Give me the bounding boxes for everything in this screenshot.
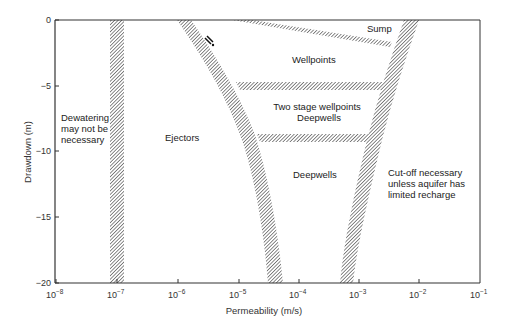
svg-text:10−4: 10−4 [289,288,307,300]
y-tick-labels: 0 −5 −10 −15 −20 [36,15,51,288]
band-wellpoint-limit [236,82,388,90]
dewatering-method-chart: 10−8 10−7 10−6 10−5 10−4 10−3 10−2 10−1 … [0,0,508,322]
svg-text:10−2: 10−2 [409,288,427,300]
label-sump: Sump [367,23,392,34]
y-axis-title: Drawdown (m) [22,121,33,183]
svg-text:limited recharge: limited recharge [388,189,456,200]
svg-text:10−5: 10−5 [229,288,247,300]
label-dewatering: Dewatering [61,112,109,123]
boundary-bands [110,20,419,283]
svg-text:−20: −20 [36,278,51,288]
label-ejectors: Ejectors [165,132,200,143]
svg-text:Deepwells: Deepwells [297,112,341,123]
band-dewatering-limit [110,20,124,283]
svg-text:may not be: may not be [61,123,108,134]
x-tick-labels: 10−8 10−7 10−6 10−5 10−4 10−3 10−2 10−1 [46,288,488,300]
svg-text:unless aquifer has: unless aquifer has [388,178,465,189]
band-ejector-boundary [177,20,283,283]
label-cutoff: Cut-off necessary [388,167,463,178]
svg-text:necessary: necessary [61,134,105,145]
svg-text:10−3: 10−3 [349,288,367,300]
svg-text:10−6: 10−6 [168,288,186,300]
svg-text:10−1: 10−1 [470,288,488,300]
svg-text:−15: −15 [36,212,51,222]
svg-text:10−7: 10−7 [107,288,125,300]
x-axis-title: Permeability (m/s) [226,305,303,316]
svg-text:−10: −10 [36,146,51,156]
band-two-stage-limit [257,134,378,142]
svg-text:0: 0 [46,15,51,25]
svg-text:10−8: 10−8 [46,288,64,300]
label-deepwells: Deepwells [293,169,337,180]
label-two-stage: Two stage wellpoints [273,101,361,112]
band-upper-boundary [340,20,419,283]
label-wellpoints: Wellpoints [292,54,336,65]
svg-text:−5: −5 [41,81,51,91]
